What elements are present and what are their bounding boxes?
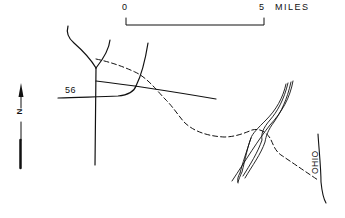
dashed-route (96, 59, 318, 180)
scale-end-label: 5 (259, 3, 265, 12)
north-label: N (16, 108, 24, 115)
river (232, 81, 293, 183)
scale-start-label: 0 (122, 3, 128, 12)
route-56-label: 56 (65, 86, 76, 95)
scale-bar (126, 18, 264, 25)
roads (58, 26, 216, 165)
ohio-label: OHIO (311, 150, 320, 174)
scale-unit-label: MILES (275, 3, 310, 12)
map-canvas (0, 0, 345, 218)
north-arrow-icon (19, 83, 24, 168)
